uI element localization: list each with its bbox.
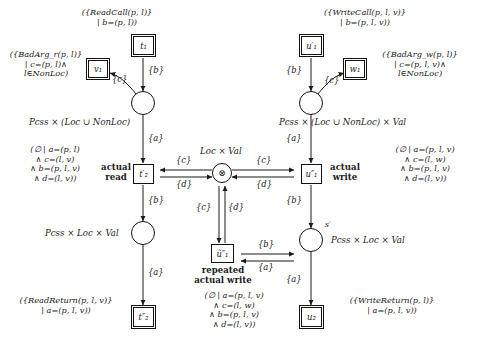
annotation-read-call: ({ReadCall(p, l)} | b=(p, l)): [56, 8, 178, 27]
arc-label-write-in-to-u1pp: {a}: [286, 134, 302, 144]
transition-t1[interactable]: t₁: [133, 36, 154, 55]
transition-w1-label: w₁: [350, 64, 361, 74]
transition-v1[interactable]: v₁: [88, 60, 108, 78]
arc-label-read-out-to-t2pp: {a}: [148, 268, 164, 278]
transition-t2-dprime[interactable]: t″₂: [133, 307, 154, 327]
annotation-bad-arg-read: ({BadArg_r(p, l)} | c=(p, l)∧ l∈NonLoc): [2, 50, 90, 79]
transition-u1-dprime[interactable]: u″₁: [301, 164, 322, 184]
place-read-input[interactable]: [131, 91, 155, 115]
annotation-read-return: ({ReadReturn(p, l, v)} | a=(p, l, v)): [4, 296, 128, 315]
transition-t2-prime-label: t′₂: [139, 169, 148, 179]
arc-label-store-to-u1pp: {c}: [256, 156, 271, 166]
transition-u2[interactable]: u₂: [301, 307, 322, 327]
arc-label-read-in-to-t2p: {a}: [148, 134, 164, 144]
arc-label-t2p-to-read-out: {b}: [148, 196, 164, 206]
arc-label-read-in-to-v1: {c}: [112, 75, 127, 85]
transition-u2-label: u₂: [307, 312, 316, 322]
transition-u1-tilde-dprime[interactable]: ũ″₁: [211, 244, 234, 263]
place-write-output-type: Pcss × Loc × Val: [331, 235, 405, 245]
arc-label-store-to-t2p: {c}: [176, 156, 191, 166]
transition-t2-dprime-label: t″₂: [139, 312, 149, 322]
annotation-write-guard: (∅ | a=(p, l, v) ∧ c=(l, w) ∧ b=(p, l, v…: [372, 145, 478, 184]
annotation-actual-read: actual read: [99, 163, 133, 183]
transition-v1-label: v₁: [94, 64, 102, 74]
arc-label-t2p-to-store: {d}: [176, 180, 192, 190]
arc-label-store-to-u1tilde: {c}: [196, 203, 211, 213]
arc-label-write-out-to-u2: {a}: [286, 275, 302, 285]
transition-u1-dprime-label: u″₁: [306, 169, 318, 179]
arc-label-u1pp-to-write-out: {b}: [286, 196, 302, 206]
arc-label-u1p-to-write-in: {b}: [286, 66, 302, 76]
place-write-output[interactable]: [299, 228, 323, 252]
place-write-input-type: Pcss × (Loc ∪ NonLoc) × Val: [279, 117, 406, 127]
transition-t2-prime[interactable]: t′₂: [133, 164, 154, 184]
place-read-output-type: Pcss × Loc × Val: [45, 228, 119, 238]
annotation-actual-write: actual write: [327, 163, 363, 183]
annotation-read-guard: (∅ | a=(p, l) ∧ c=(l, v) ∧ b=(p, l, v) ∧…: [3, 145, 107, 184]
transition-t1-label: t₁: [140, 41, 147, 51]
annotation-write-return: ({WriteReturn(p, l)} | a=(p, l, v)): [330, 296, 454, 315]
transition-u1-prime-label: u′₁: [306, 41, 317, 51]
diagram-canvas: t₁ v₁ t′₂ t″₂ u′₁ w₁ u″₁ ũ″₁ u₂ ⊗ Pcss ×…: [0, 0, 481, 354]
place-store-type: Loc × Val: [200, 146, 242, 156]
transition-u1-tilde-dprime-label: ũ″₁: [217, 249, 229, 259]
annotation-write-call: ({WriteCall(p, l, v)} | b=(p, l, v)): [300, 8, 430, 27]
tensor-icon: ⊗: [218, 168, 226, 178]
arc-label-t1-to-read-in: {b}: [148, 66, 164, 76]
transition-w1[interactable]: w₁: [345, 60, 365, 78]
place-write-output-marker: s′: [325, 221, 331, 230]
arc-label-u1tilde-to-write-out: {b}: [258, 240, 274, 250]
annotation-repeated-actual-write: repeated actual write: [183, 266, 263, 286]
place-read-input-type: Pcss × (Loc ∪ NonLoc): [29, 117, 130, 127]
arc-label-write-in-to-w1: {c}: [324, 76, 339, 86]
arc-label-u1tilde-to-store: {d}: [228, 203, 244, 213]
place-write-input[interactable]: [299, 91, 323, 115]
arc-label-u1pp-to-store: {d}: [256, 180, 272, 190]
transition-u1-prime[interactable]: u′₁: [301, 36, 322, 55]
annotation-bad-arg-write: ({BadArg_w(p, l)} | c=(p, l, v)∧ l∈NonLo…: [370, 50, 470, 79]
place-read-output[interactable]: [131, 221, 155, 245]
annotation-repeated-guard: (∅ | a=(p, l, v) ∧ c=(l, w) ∧ b=(p, l, v…: [182, 291, 286, 330]
place-store[interactable]: ⊗: [212, 163, 232, 183]
